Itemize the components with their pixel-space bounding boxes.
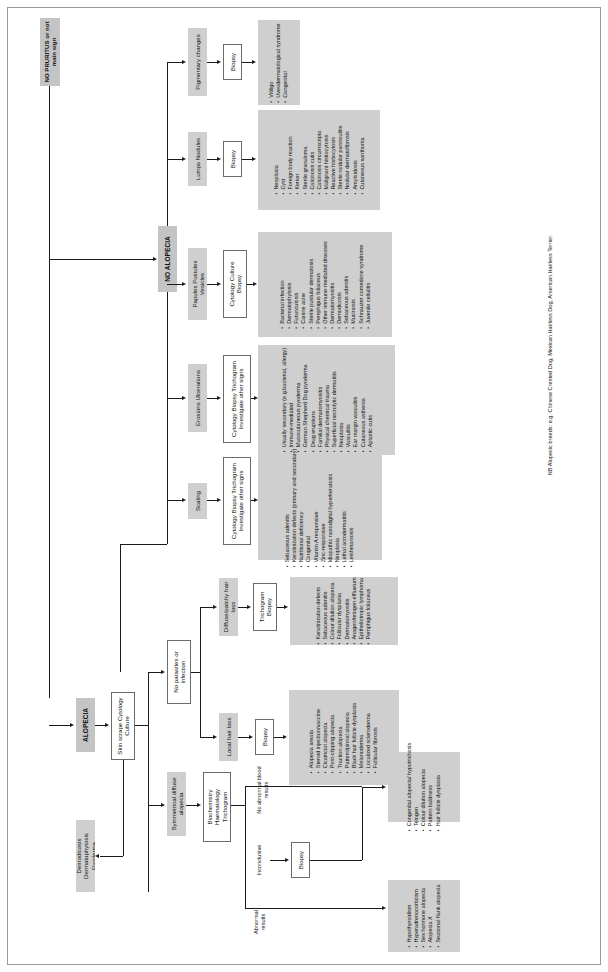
- list-item: Cyst: [280, 125, 287, 194]
- list-item: Mucocutaneous pyoderma: [294, 348, 301, 452]
- list-item: Calcinosis cutis: [308, 125, 315, 194]
- arrowhead-papules: [182, 282, 186, 286]
- list-item: Usually secondary (e.g.bacterial, allerg…: [280, 348, 287, 452]
- list-item: Physical chemical trauma: [323, 348, 330, 452]
- list-item: Congenital alopecia/ hypotrichosis: [406, 743, 413, 831]
- arrowhead-erosions: [182, 396, 186, 400]
- edge-label-abnormal-results: Abnormal results: [248, 900, 272, 944]
- edge-label-no-abnormal-results: No abnormal blood results: [248, 762, 278, 818]
- list-item: Canine acne: [300, 241, 307, 329]
- test-biopsy-lumps-label: Biopsy: [229, 150, 236, 168]
- list-item: Vasculitis: [344, 348, 351, 452]
- list-item: Superficial necrolytic dermatitis: [330, 348, 337, 452]
- list-item: Follicular fibrosis: [373, 702, 380, 772]
- list-item: Kerion: [294, 125, 301, 194]
- list-item: Sebaceous adenitis: [343, 241, 350, 329]
- arrowhead-test-scaling: [217, 498, 221, 502]
- branch-alopecia-label: ALOPECIA: [82, 708, 90, 742]
- outcome-demodicosis-dermatophytosis-pyoderma: Demodicosis Dermatophytosis Pyoderma: [76, 820, 95, 892]
- connector-skinscrape-to-rail: [135, 725, 148, 726]
- outcome-list-diffuse-patchy-items: Keratinization defectsSebaceous adenitis…: [315, 578, 372, 645]
- list-item: Other immune-mediated diseases: [321, 241, 328, 329]
- arrowhead-localhairloss-list: [283, 735, 287, 739]
- outcome-list-erosions-items: Usually secondary (e.g.bacterial, allerg…: [280, 348, 373, 452]
- test-cytology-biopsy-trichogram-2-label: Cytology Biopsy Trichogram Investigate o…: [230, 460, 245, 542]
- test-biopsy-local-label: Biopsy: [261, 728, 268, 746]
- node-no-parasites-or-infection: No parasites or infection: [167, 640, 191, 704]
- node-local-hair-loss-label: Local hair loss: [225, 716, 232, 758]
- test-cytology-biopsy-trichogram-2: Cytology Biopsy Trichogram Investigate o…: [223, 457, 251, 545]
- arrowhead-biopsy-lumps: [217, 157, 221, 161]
- list-item: Dermatomyositis: [329, 241, 336, 329]
- connector-rail-to-scaling: [167, 500, 183, 501]
- list-item: Neoplasia: [337, 348, 344, 452]
- connector-down-to-demodicosis: [100, 856, 123, 857]
- list-item: Nutritional deficiency: [299, 448, 306, 567]
- test-biopsy-pigmentary-label: Biopsy: [229, 53, 236, 71]
- connector-biochem-to-noabnormal: [245, 786, 261, 787]
- list-item: Sebaceous adenitis: [284, 448, 291, 567]
- list-item: Aplastic cutis: [366, 348, 373, 452]
- list-item: Keratinization defects: [315, 578, 322, 645]
- arrowhead-localhairloss: [213, 735, 217, 739]
- connector-rail-to-papules: [167, 284, 183, 285]
- list-item: Follicular dysplasia: [337, 578, 344, 645]
- connector-riser-to-scaling: [120, 544, 167, 545]
- outcome-list-scaling: Sebaceous adenitisKeratinization defects…: [258, 455, 382, 560]
- list-item: Telogen: [413, 743, 420, 831]
- list-item: Colour dilution alopecia: [420, 743, 427, 831]
- connector-scaling-rail: [167, 500, 168, 544]
- node-no-parasites-label: No parasites or infection: [172, 644, 187, 700]
- list-item: German Shepherd Dog pyoderma: [302, 348, 309, 452]
- list-item: Sterile nodular panniculitis: [337, 125, 344, 194]
- connector-rail-to-symmetrical: [148, 805, 162, 806]
- list-item: Calcinosis circumscripta: [315, 125, 322, 194]
- list-item: Dermatomyositis: [344, 578, 351, 645]
- test-biochemistry-label: Biochemistry Haematology Trichogram: [206, 774, 228, 840]
- list-item: Hypothyroidism: [406, 884, 413, 947]
- sign-scaling: Scaling: [188, 483, 207, 519]
- connector-noabnormal-long: [261, 786, 362, 787]
- list-item: Post-clipping alopecia: [330, 702, 337, 772]
- connector-skinscrape-down: [123, 760, 124, 856]
- node-symmetrical-label: Symmetrical diffuse alopecia: [169, 776, 184, 832]
- list-item: Melanoderma: [358, 702, 365, 772]
- list-item: Colour dilution alopecia: [330, 578, 337, 645]
- outcome-list-papules: Bacterial infectionDermatophytosisFurunc…: [258, 232, 392, 337]
- outcome-list-endocrine-items: HypothyroidismHyperadrenocorticismSex ho…: [406, 884, 442, 947]
- arrowhead-diffusepatchy: [213, 605, 217, 609]
- list-item: Juvenile cellulitis: [364, 241, 371, 329]
- list-item: Alopecia areata: [308, 702, 315, 772]
- outcome-list-diffuse-patchy: Keratinization defectsSebaceous adenitis…: [290, 577, 398, 645]
- node-diffuse-patchy-label: Diffuse/patchy hair loss: [221, 581, 236, 633]
- outcome-list-erosions: Usually secondary (e.g.bacterial, allerg…: [258, 345, 395, 455]
- list-item: Cutaneous asthenia: [359, 348, 366, 452]
- connector-rail-to-noparasites: [148, 672, 162, 673]
- arrowhead-biopsy-local: [249, 735, 253, 739]
- arrowhead-scaling: [182, 498, 186, 502]
- list-item: Amyloidosis: [351, 125, 358, 194]
- sign-erosions-ulcerations: Erosions Ulcerations: [188, 364, 207, 432]
- list-item: Foreign body reaction: [287, 125, 294, 194]
- arrowhead-noparasites: [161, 670, 165, 674]
- connector-no-alopecia-rail-2: [167, 292, 168, 500]
- connector-final-rail: [362, 787, 363, 860]
- test-biopsy-symmetrical-label: Biopsy: [297, 851, 304, 869]
- list-item: Vitiligo: [268, 23, 275, 102]
- list-item: Schnauzer comedone syndrome: [357, 241, 364, 329]
- edge-label-inconclusive-text: Inconclusive: [256, 845, 263, 876]
- test-skin-scrape-cytology-culture: Skin scrape Cytology Culture: [111, 692, 135, 760]
- list-item: Cicatricial alopecia: [323, 702, 330, 772]
- connector-root-to-no-alopecia: [49, 259, 154, 260]
- sign-pigmentary-label: Pigmentary changes: [194, 31, 201, 93]
- list-item: Pattern baldness: [428, 743, 435, 831]
- list-item: Uveodermatological syndrome: [275, 23, 282, 102]
- outcome-list-local-hair-loss: Alopecia areataSteroid injection/vaccine…: [289, 690, 399, 785]
- outcome-list-pigmentary-items: VitiligoUveodermatological syndromeConge…: [268, 23, 289, 102]
- node-diffuse-patchy-hair-loss: Diffuse/patchy hair loss: [219, 578, 238, 636]
- arrowhead-biopsy-sym: [285, 858, 289, 862]
- test-biochemistry-haematology-trichogram: Biochemistry Haematology Trichogram: [203, 772, 231, 842]
- list-item: Hyperadrenocorticism: [413, 884, 420, 947]
- connector-rail-to-erosions: [167, 398, 183, 399]
- list-item: Neoplasia: [334, 448, 341, 567]
